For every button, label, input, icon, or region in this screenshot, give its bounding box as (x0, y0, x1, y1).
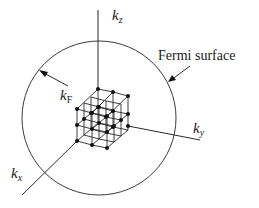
fermi-surface-label: Fermi surface (158, 48, 235, 63)
k-points (75, 87, 130, 150)
fermi-surface-arrow-head (168, 75, 176, 82)
diagram-svg: kz ky kx kF Fermi surface (0, 0, 259, 208)
kz-label: kz (112, 7, 123, 25)
ky-label: ky (193, 120, 205, 138)
ky-axis (128, 126, 200, 140)
fermi-sphere-diagram: kz ky kx kF Fermi surface (0, 0, 259, 208)
kx-axis (22, 141, 77, 195)
kf-label: kF (60, 87, 73, 105)
kf-arrow-head (39, 70, 48, 77)
kx-label: kx (11, 165, 23, 183)
